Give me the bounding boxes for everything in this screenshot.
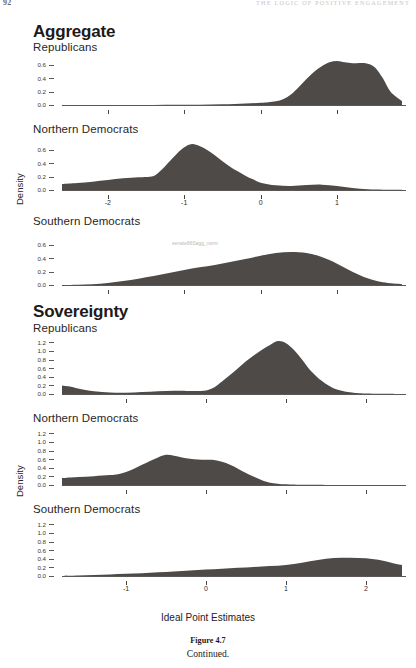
x-axis-line — [62, 285, 406, 286]
y-axis-tick-label: 1.2 — [20, 339, 46, 346]
y-axis-tick — [49, 451, 54, 452]
x-axis-line — [62, 190, 406, 191]
y-axis-tick — [49, 150, 54, 151]
y-axis-tick — [49, 163, 54, 164]
y-axis-tick — [49, 567, 54, 568]
density-panel-aggregate-northern-democrats: -2-1010.00.20.40.6 — [0, 140, 416, 202]
group-title-sovereignty-republicans: Republicans — [33, 322, 97, 334]
y-axis-tick-label: 0.2 — [20, 564, 46, 571]
density-panel-aggregate-republicans: 0.00.20.40.6 — [0, 55, 416, 117]
x-axis-tick — [261, 110, 262, 114]
y-axis-tick — [49, 272, 54, 273]
page-number: 92 — [3, 0, 12, 7]
group-title-aggregate-southern-democrats: Southern Democrats — [33, 215, 140, 227]
x-axis-tick — [126, 490, 127, 494]
y-axis-tick — [49, 342, 54, 343]
x-axis-tick — [206, 490, 207, 494]
y-axis-tick-label: 1.2 — [20, 521, 46, 528]
y-axis-tick-label: 0.0 — [20, 572, 46, 579]
y-axis-tick-label: 0.4 — [20, 255, 46, 262]
y-axis-tick-label: 0.4 — [20, 75, 46, 82]
y-axis-tick-label: 0.6 — [20, 547, 46, 554]
x-axis-tick — [366, 490, 367, 494]
y-axis-tick — [49, 360, 54, 361]
y-axis-tick-label: 1.0 — [20, 529, 46, 536]
y-axis-tick-label: 1.2 — [20, 430, 46, 437]
y-axis-tick-label: 0.6 — [20, 241, 46, 248]
y-axis-tick-label: 0.8 — [20, 447, 46, 454]
x-axis-tick-label: 2 — [346, 585, 386, 592]
y-axis-tick — [49, 476, 54, 477]
y-axis-tick-label: 0.0 — [20, 281, 46, 288]
y-axis-tick — [49, 78, 54, 79]
y-axis-tick-label: 0.0 — [20, 390, 46, 397]
y-axis-tick-label: 0.4 — [20, 555, 46, 562]
y-axis-tick — [49, 245, 54, 246]
figure-caption-number: Figure 4.7 — [0, 636, 416, 645]
y-axis-tick-label: 0.4 — [20, 373, 46, 380]
y-axis-tick — [49, 533, 54, 534]
x-axis-tick-label: -1 — [106, 585, 146, 592]
x-axis-tick — [337, 110, 338, 114]
y-axis-tick-label: 0.2 — [20, 268, 46, 275]
y-axis-tick — [49, 105, 54, 106]
y-axis-label-sovereignty: Density — [14, 465, 25, 497]
density-curve — [0, 427, 416, 497]
y-axis-tick-label: 0.6 — [20, 365, 46, 372]
x-axis-line — [62, 576, 406, 577]
x-axis-tick — [108, 110, 109, 114]
x-axis-tick-label: 0 — [186, 585, 226, 592]
y-axis-tick — [49, 524, 54, 525]
y-axis-tick-label: 1.0 — [20, 347, 46, 354]
group-title-aggregate-northern-democrats: Northern Democrats — [33, 123, 138, 135]
x-axis-tick-label: -1 — [164, 199, 204, 206]
y-axis-label-aggregate: Density — [14, 173, 25, 205]
group-title-aggregate-republicans: Republicans — [33, 41, 97, 53]
y-axis-tick — [49, 385, 54, 386]
x-axis-tick — [184, 290, 185, 294]
y-axis-tick — [49, 459, 54, 460]
running-head-title: THE LOGIC OF POSITIVE ENGAGEMENT — [256, 0, 410, 6]
x-axis-tick-label: 1 — [317, 199, 357, 206]
figure-caption-text: Continued. — [0, 648, 416, 659]
density-curve — [0, 336, 416, 406]
x-axis-label: Ideal Point Estimates — [0, 612, 416, 623]
x-axis-tick — [261, 290, 262, 294]
y-axis-tick-label: 0.8 — [20, 538, 46, 545]
y-axis-tick — [49, 377, 54, 378]
document-page: 92 THE LOGIC OF POSITIVE ENGAGEMENT Aggr… — [0, 0, 416, 668]
y-axis-tick-label: 1.0 — [20, 438, 46, 445]
y-axis-tick-label: 0.6 — [20, 61, 46, 68]
x-axis-tick-label: 0 — [241, 199, 281, 206]
x-axis-tick — [286, 490, 287, 494]
y-axis-tick — [49, 542, 54, 543]
x-axis-line — [62, 394, 406, 395]
density-panel-sovereignty-northern-democrats: 0.00.20.40.60.81.01.2 — [0, 427, 416, 497]
y-axis-tick — [49, 433, 54, 434]
y-axis-tick — [49, 92, 54, 93]
y-axis-tick — [49, 442, 54, 443]
x-axis-tick — [206, 399, 207, 403]
y-axis-tick — [49, 177, 54, 178]
y-axis-tick — [49, 394, 54, 395]
x-axis-line — [62, 105, 406, 106]
y-axis-tick — [49, 65, 54, 66]
density-curve — [0, 55, 416, 117]
y-axis-tick-label: 0.0 — [20, 101, 46, 108]
y-axis-tick-label: 0.4 — [20, 160, 46, 167]
y-axis-tick-label: 0.8 — [20, 356, 46, 363]
x-axis-tick — [337, 290, 338, 294]
x-axis-line — [62, 485, 406, 486]
running-head: 92 THE LOGIC OF POSITIVE ENGAGEMENT — [0, 0, 416, 12]
x-axis-tick — [108, 290, 109, 294]
y-axis-tick — [49, 550, 54, 551]
x-axis-tick — [184, 110, 185, 114]
y-axis-tick — [49, 368, 54, 369]
density-panel-sovereignty-republicans: 0.00.20.40.60.81.01.2 — [0, 336, 416, 406]
density-panel-sovereignty-southern-democrats: -10120.00.20.40.60.81.01.2 — [0, 518, 416, 588]
x-axis-tick-label: -2 — [88, 199, 128, 206]
section-title-aggregate: Aggregate — [33, 22, 115, 42]
y-axis-tick-label: 0.2 — [20, 382, 46, 389]
density-curve — [0, 518, 416, 588]
group-title-sovereignty-southern-democrats: Southern Democrats — [33, 503, 140, 515]
